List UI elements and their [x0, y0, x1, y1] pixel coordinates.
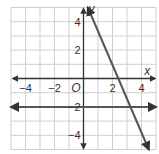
coordinate-plane: −4−22442−2−4Oxy [0, 0, 159, 154]
y-tick-label: 4 [74, 16, 80, 28]
x-tick-label: 2 [109, 82, 115, 94]
axes [13, 9, 155, 149]
origin-label: O [71, 81, 80, 95]
x-tick-label: −2 [48, 82, 61, 94]
tick-labels: −4−22442−2−4Oxy [19, 2, 151, 141]
x-tick-label: −4 [19, 82, 32, 94]
y-tick-label: −4 [68, 129, 81, 141]
y-tick-label: −2 [68, 101, 81, 113]
y-axis-label: y [88, 2, 96, 16]
x-axis-label: x [143, 64, 151, 78]
y-tick-label: 2 [74, 44, 80, 56]
x-tick-label: 4 [138, 82, 144, 94]
